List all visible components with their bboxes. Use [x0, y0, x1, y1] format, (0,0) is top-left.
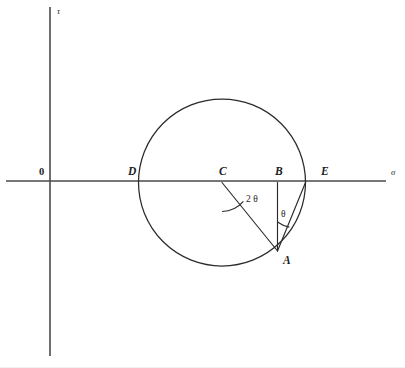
origin-label: 0	[39, 166, 44, 177]
point-label-c: C	[219, 165, 227, 177]
radius-lines-group	[222, 183, 306, 252]
two-theta-label: 2 θ	[246, 194, 258, 204]
sigma-axis-label: σ	[391, 167, 396, 177]
theta-label: θ	[281, 209, 286, 219]
mohr-circle-figure: σ τ 0 2 θ θ D C B E A	[0, 0, 405, 368]
segment-c-to-a	[222, 183, 278, 252]
two-theta-arc	[222, 201, 243, 211]
axes-group: σ τ 0	[6, 6, 396, 356]
point-label-d: D	[127, 165, 137, 177]
theta-arc	[278, 222, 290, 227]
tau-axis-label: τ	[57, 6, 61, 16]
point-label-a: A	[282, 254, 291, 266]
point-label-e: E	[320, 165, 329, 177]
point-label-b: B	[274, 165, 283, 177]
mohr-circle-diagram: σ τ 0 2 θ θ D C B E A	[0, 0, 405, 368]
